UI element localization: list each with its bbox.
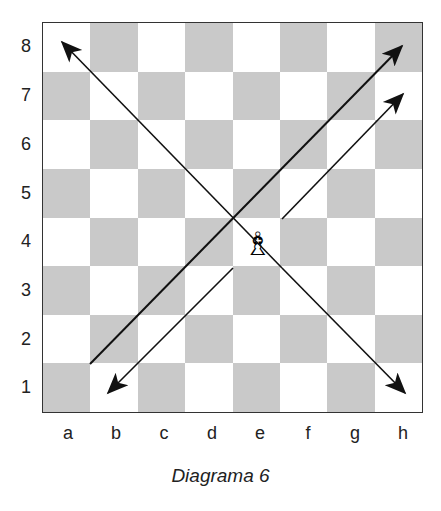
chess-board: [42, 22, 423, 413]
square-d1: [185, 363, 232, 412]
square-f8: [280, 23, 327, 72]
file-label-a: a: [58, 423, 78, 444]
square-c6: [138, 120, 185, 169]
square-e1: [233, 363, 280, 412]
file-label-e: e: [250, 423, 270, 444]
square-f5: [280, 169, 327, 218]
white-bishop-icon: ♗: [234, 220, 281, 268]
square-h5: [375, 169, 422, 218]
square-e2: [233, 315, 280, 364]
square-g5: [327, 169, 374, 218]
file-label-d: d: [202, 423, 222, 444]
rank-label-1: 1: [18, 377, 34, 398]
rank-label-4: 4: [18, 231, 34, 252]
square-c8: [138, 23, 185, 72]
file-label-b: b: [106, 423, 126, 444]
rank-label-8: 8: [18, 36, 34, 57]
square-g1: [327, 363, 374, 412]
square-e3: [233, 266, 280, 315]
square-b4: [90, 218, 137, 267]
square-b6: [90, 120, 137, 169]
square-h2: [375, 315, 422, 364]
square-d4: [185, 218, 232, 267]
square-g8: [327, 23, 374, 72]
square-a4: [43, 218, 90, 267]
square-a5: [43, 169, 90, 218]
square-d6: [185, 120, 232, 169]
file-label-c: c: [154, 423, 174, 444]
square-h6: [375, 120, 422, 169]
square-d3: [185, 266, 232, 315]
square-f2: [280, 315, 327, 364]
rank-label-3: 3: [18, 280, 34, 301]
square-c7: [138, 72, 185, 121]
square-c4: [138, 218, 185, 267]
rank-label-2: 2: [18, 329, 34, 350]
square-d7: [185, 72, 232, 121]
square-a2: [43, 315, 90, 364]
square-f1: [280, 363, 327, 412]
square-d2: [185, 315, 232, 364]
square-c5: [138, 169, 185, 218]
square-c1: [138, 363, 185, 412]
square-e5: [233, 169, 280, 218]
square-g3: [327, 266, 374, 315]
file-label-g: g: [345, 423, 365, 444]
square-h8: [375, 23, 422, 72]
square-a7: [43, 72, 90, 121]
square-h1: [375, 363, 422, 412]
square-a8: [43, 23, 90, 72]
square-h3: [375, 266, 422, 315]
file-label-h: h: [393, 423, 413, 444]
square-d8: [185, 23, 232, 72]
rank-label-7: 7: [18, 85, 34, 106]
square-b7: [90, 72, 137, 121]
square-d5: [185, 169, 232, 218]
square-f7: [280, 72, 327, 121]
square-e6: [233, 120, 280, 169]
square-c3: [138, 266, 185, 315]
square-f4: [280, 218, 327, 267]
square-b5: [90, 169, 137, 218]
square-g6: [327, 120, 374, 169]
square-b1: [90, 363, 137, 412]
square-a3: [43, 266, 90, 315]
rank-label-5: 5: [18, 183, 34, 204]
square-h7: [375, 72, 422, 121]
square-e8: [233, 23, 280, 72]
file-label-f: f: [298, 423, 318, 444]
square-g4: [327, 218, 374, 267]
square-f6: [280, 120, 327, 169]
square-a1: [43, 363, 90, 412]
square-b3: [90, 266, 137, 315]
square-h4: [375, 218, 422, 267]
square-b8: [90, 23, 137, 72]
square-g2: [327, 315, 374, 364]
square-g7: [327, 72, 374, 121]
rank-label-6: 6: [18, 134, 34, 155]
square-e7: [233, 72, 280, 121]
square-c2: [138, 315, 185, 364]
diagram-caption: Diagrama 6: [0, 465, 441, 487]
square-f3: [280, 266, 327, 315]
square-a6: [43, 120, 90, 169]
square-b2: [90, 315, 137, 364]
